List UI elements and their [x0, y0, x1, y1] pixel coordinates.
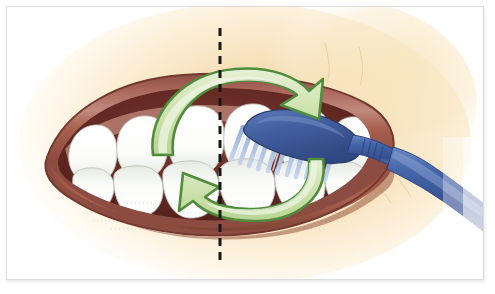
artwork-canvas — [7, 7, 483, 279]
toothbrushing-diagram — [7, 7, 483, 279]
illustration-figure — [0, 0, 495, 294]
brush-fade-overlay-2 — [463, 137, 483, 252]
